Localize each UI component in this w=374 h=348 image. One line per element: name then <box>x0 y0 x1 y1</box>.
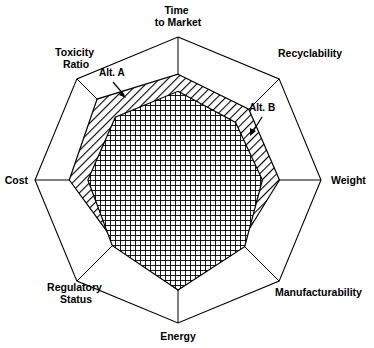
axis-label-cost: Cost <box>5 174 29 186</box>
radar-chart: Time to Market Recyclability Weight Manu… <box>0 0 374 348</box>
axis-label-recyclability: Recyclability <box>278 47 342 59</box>
radar-chart-container: Time to Market Recyclability Weight Manu… <box>0 0 374 348</box>
series-label-alt-a: Alt. A <box>99 67 125 78</box>
axis-label-weight: Weight <box>331 174 366 186</box>
axis-label-energy: Energy <box>160 330 196 342</box>
annotation-alt-a: Alt. A <box>99 67 126 98</box>
series-label-alt-b: Alt. B <box>249 102 275 113</box>
axis-label-toxicity-ratio: Toxicity Ratio <box>55 46 97 70</box>
axis-label-regulatory-status: Regulatory Status <box>47 281 105 305</box>
axis-label-manufacturability: Manufacturability <box>275 286 362 298</box>
axis-label-time-to-market: Time to Market <box>155 4 202 28</box>
